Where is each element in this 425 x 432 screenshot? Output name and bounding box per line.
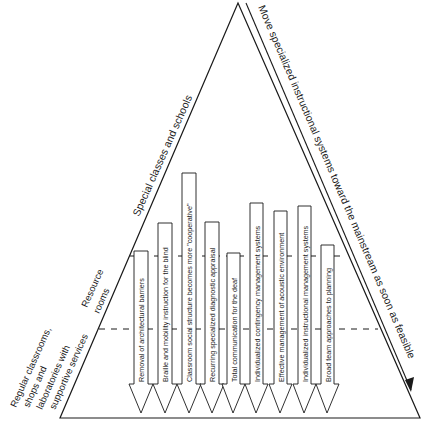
svg-text:Total communication for the de: Total communication for the deaf (230, 278, 239, 382)
arrow-braille-mobility: Braille and mobility instruction for the… (153, 223, 177, 413)
arrow-cooperative-structure: Classroom social structure becomes more … (177, 173, 201, 413)
svg-text:Individualized contingency man: Individualized contingency management sy… (253, 225, 262, 382)
arrow-acoustic-environment: Effective management of acoustic environ… (269, 211, 292, 413)
arrow-diagnostic-appraisal: Recurring specialized diagnostic apprais… (200, 222, 224, 413)
arrow-removal-barriers: Removal of architectural barriers (129, 251, 153, 413)
svg-text:Broad team approaches to plann: Broad team approaches to planning (324, 268, 333, 382)
svg-text:Individualized instructional m: Individualized instructional management … (301, 225, 310, 382)
svg-text:Removal of architectural barri: Removal of architectural barriers (137, 278, 146, 382)
svg-text:Braille and mobility instructi: Braille and mobility instruction for the… (161, 247, 170, 382)
arrow-total-communication: Total communication for the deaf (222, 253, 245, 413)
arrow-contingency-management: Individualized contingency management sy… (245, 203, 268, 413)
regular-classrooms-label: Regular classrooms, shops and laboratori… (8, 325, 90, 411)
svg-text:Effective management of acoust: Effective management of acoustic environ… (277, 233, 286, 382)
arrow-instructional-management: Individualized instructional management … (293, 206, 316, 413)
svg-text:Recurring specialized diagnost: Recurring specialized diagnostic apprais… (208, 247, 217, 382)
cascade-triangle-diagram: Special classes and schools Resource roo… (0, 0, 425, 432)
svg-text:Classroom social structure bec: Classroom social structure becomes more … (185, 203, 194, 382)
